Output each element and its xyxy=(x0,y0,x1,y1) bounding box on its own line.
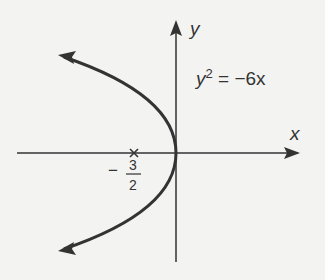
focus-label: − 3 2 xyxy=(108,157,141,193)
parabola-figure: − 3 2 y x y2 = −6x xyxy=(0,0,325,280)
curve-arrow-bottom-icon xyxy=(58,242,76,255)
focus-label-numerator: 3 xyxy=(129,157,137,173)
x-axis-label: x xyxy=(289,123,301,144)
curve-arrow-top-icon xyxy=(58,51,76,64)
y-axis-label: y xyxy=(188,18,201,39)
focus-label-sign: − xyxy=(108,161,118,180)
equation-label: y2 = −6x xyxy=(194,66,266,89)
focus-label-denominator: 2 xyxy=(129,177,137,193)
